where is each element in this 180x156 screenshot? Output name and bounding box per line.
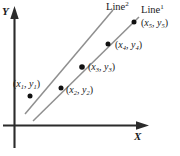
point-2-close-paren: ) [90,84,93,95]
point-1-x-subscript: 1 [21,83,24,90]
arrow-up-icon [10,6,18,19]
point-3-label: (x3, y3) [88,62,115,72]
point-2-label: (x2, y2) [66,85,93,95]
line-2-superscript: 2 [125,0,129,8]
point-3-y-var: y [104,61,108,72]
point-1-y-subscript: 1 [34,83,37,90]
scatter-plot-figure: Y X Line2 Line1 (x1, y1) (x2, y2) (x3, y… [0,0,180,156]
y-axis-label: Y [2,6,9,17]
point-4-label: (x4, y4) [115,40,142,50]
point-4-close-paren: ) [139,39,142,50]
point-2-y-subscript: 2 [87,89,90,96]
x-axis-label: X [134,131,141,142]
data-point-5 [132,20,137,25]
data-point-4 [106,42,111,47]
line-2-label-text: Line [106,1,125,12]
point-3-x-subscript: 3 [96,66,99,73]
point-5-close-paren: ) [165,17,168,28]
line-1-label-text: Line [141,4,160,15]
line-2-label: Line2 [106,2,129,13]
point-5-label: (x5, y5) [141,18,168,28]
arrow-right-icon [136,121,149,130]
data-point-1 [28,94,33,99]
point-3-y-subscript: 3 [109,66,112,73]
data-point-3 [79,64,85,70]
line-1-superscript: 1 [160,3,164,11]
point-2-y-var: y [82,84,86,95]
point-5-y-subscript: 5 [162,22,165,29]
point-5-y-var: y [157,17,161,28]
point-4-y-var: y [131,39,135,50]
line-1-label: Line1 [141,5,164,16]
point-5-x-subscript: 5 [149,22,152,29]
point-1-y-var: y [29,78,33,89]
point-2-x-subscript: 2 [74,89,77,96]
regression-line-1 [33,17,139,121]
point-1-label: (x1, y1) [13,79,40,89]
point-1-close-paren: ) [37,78,40,89]
point-4-x-subscript: 4 [123,44,126,51]
point-3-close-paren: ) [112,61,115,72]
point-4-y-subscript: 4 [136,44,139,51]
data-point-2 [59,86,64,91]
